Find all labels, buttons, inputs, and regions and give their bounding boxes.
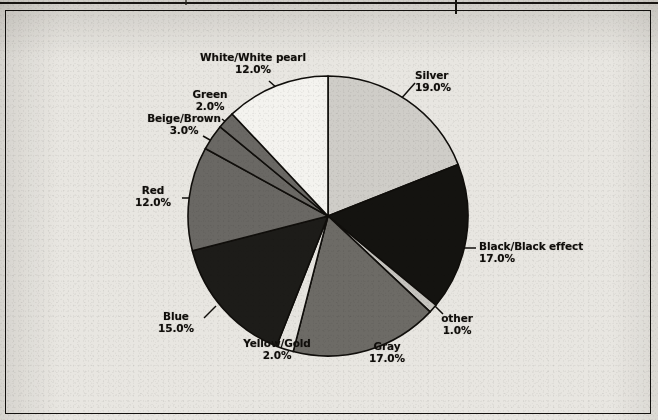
pie-label-black-black-effect-name: Black/Black effect [479, 240, 583, 252]
pie-label-other-name: other [441, 312, 473, 324]
pie-label-other-value: 1.0% [426, 325, 488, 337]
pie-label-green-value: 2.0% [160, 101, 260, 113]
pie-label-gray-name: Gray [373, 340, 400, 352]
pie-label-yellow-gold: Yellow/Gold 2.0% [222, 338, 332, 361]
pie-label-white-white-pearl-value: 12.0% [168, 64, 338, 76]
pie-label-yellow-gold-value: 2.0% [222, 350, 332, 362]
pie-label-gray-value: 17.0% [356, 353, 418, 365]
pie-label-yellow-gold-name: Yellow/Gold [243, 337, 311, 349]
pie-label-silver: Silver 19.0% [415, 70, 495, 93]
pie-label-gray: Gray 17.0% [356, 341, 418, 364]
pie-label-blue-value: 15.0% [147, 323, 205, 335]
pie-label-white-white-pearl-name: White/White pearl [200, 51, 306, 63]
leader-line-blue [204, 306, 216, 318]
pie-label-silver-value: 19.0% [415, 82, 495, 94]
pie-label-beige-brown-name: Beige/Brown [147, 112, 221, 124]
pie-label-blue-name: Blue [163, 310, 189, 322]
pie-label-beige-brown-value: 3.0% [129, 125, 239, 137]
pie-label-other: other 1.0% [426, 313, 488, 336]
pie-label-black-black-effect-value: 17.0% [479, 253, 639, 265]
pie-label-blue: Blue 15.0% [147, 311, 205, 334]
pie-label-red: Red 12.0% [125, 185, 181, 208]
pie-label-beige-brown: Beige/Brown 3.0% [129, 113, 239, 136]
pie-label-green-name: Green [192, 88, 227, 100]
pie-label-red-value: 12.0% [125, 197, 181, 209]
pie-chart: White/White pearl 12.0% Green 2.0% Beige… [0, 0, 658, 420]
pie-label-green: Green 2.0% [160, 89, 260, 112]
pie-label-red-name: Red [142, 184, 164, 196]
pie-label-silver-name: Silver [415, 69, 448, 81]
pie-label-white-white-pearl: White/White pearl 12.0% [168, 52, 338, 75]
scanned-page: White/White pearl 12.0% Green 2.0% Beige… [0, 0, 658, 420]
pie-label-black-black-effect: Black/Black effect 17.0% [479, 241, 639, 264]
